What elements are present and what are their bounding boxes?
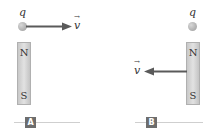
charge-particle-b-icon xyxy=(188,22,197,31)
charge-label-a: q xyxy=(19,6,26,19)
north-pole-label-b: N xyxy=(187,47,199,58)
panel-label-a: A xyxy=(25,117,36,128)
panel-label-b: B xyxy=(146,117,157,128)
velocity-arrow-right-icon xyxy=(26,21,72,32)
bar-magnet-a: N S xyxy=(17,42,31,105)
bar-magnet-b: N S xyxy=(186,42,200,105)
velocity-label-b: → v xyxy=(134,64,140,77)
south-pole-label-a: S xyxy=(18,90,30,101)
south-pole-label-b: S xyxy=(187,90,199,101)
north-pole-label-a: N xyxy=(18,47,30,58)
baseline-a xyxy=(14,122,80,123)
velocity-label-a: → v xyxy=(74,19,80,32)
charge-label-b: q xyxy=(189,6,196,19)
velocity-arrow-left-icon xyxy=(144,66,187,77)
